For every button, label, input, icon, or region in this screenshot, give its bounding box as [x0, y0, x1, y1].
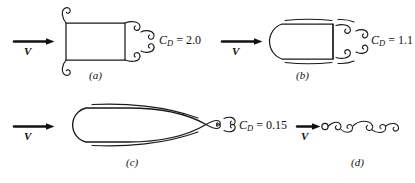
cd-subscript-c: D	[247, 123, 253, 133]
cd-symbol-c: C	[239, 118, 247, 132]
body-shape-b	[270, 24, 334, 59]
cd-symbol-a: C	[159, 33, 167, 47]
wake-eddies-b	[336, 25, 368, 59]
cd-label-b: CD = 1.1	[371, 34, 413, 48]
cd-value-a: 2.0	[186, 33, 201, 47]
panel-caption-c: (c)	[126, 157, 138, 168]
flow-velocity-label-b: V	[232, 46, 239, 57]
panel-a	[14, 8, 154, 76]
vortex-street-d	[328, 121, 399, 132]
body-shape-d	[322, 123, 328, 129]
flow-velocity-label-c: V	[24, 131, 31, 142]
cd-equals-b: =	[388, 33, 395, 47]
cd-equals-a: =	[176, 33, 183, 47]
cd-symbol-b: C	[371, 33, 379, 47]
streamlines-b	[285, 19, 354, 63]
cd-subscript-b: D	[379, 38, 385, 48]
cd-value-b: 1.1	[398, 33, 413, 47]
cd-label-c: CD = 0.15	[239, 119, 287, 133]
panel-c	[14, 104, 235, 146]
panel-caption-d: (d)	[351, 157, 364, 168]
panel-caption-b: (b)	[296, 70, 309, 81]
panel-caption-a: (a)	[89, 70, 102, 81]
body-shape-c	[73, 108, 206, 142]
body-shape-a	[66, 23, 125, 60]
flow-velocity-label-d: V	[301, 131, 308, 142]
streamlines-c	[92, 104, 198, 146]
cd-equals-c: =	[256, 118, 263, 132]
wake-eddies-c	[206, 117, 235, 131]
cd-label-a: CD = 2.0	[159, 34, 201, 48]
flow-velocity-label-a: V	[24, 46, 31, 57]
panel-b	[222, 19, 368, 63]
cd-value-c: 0.15	[266, 118, 287, 132]
wake-eddies-a	[125, 22, 154, 62]
panel-d	[297, 121, 399, 132]
cd-subscript-a: D	[167, 38, 173, 48]
